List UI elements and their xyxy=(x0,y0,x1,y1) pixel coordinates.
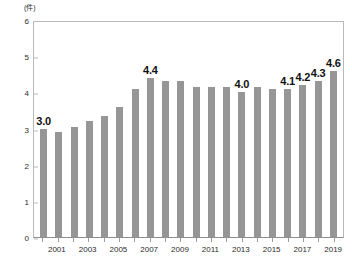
bar xyxy=(254,87,261,237)
x-axis-tick-slot xyxy=(265,238,280,243)
bar-slot xyxy=(173,22,188,237)
x-axis-tickmark xyxy=(257,238,258,242)
x-axis-label-slot: 2009 xyxy=(171,245,189,259)
x-axis-tickmark xyxy=(334,238,335,242)
x-axis-tick-label: 2013 xyxy=(232,245,250,255)
x-axis-tick-slot xyxy=(234,238,249,243)
x-axis-tickmark xyxy=(180,238,181,242)
x-axis-tick-slot xyxy=(219,238,234,243)
bar xyxy=(147,78,154,237)
x-axis-label-slot xyxy=(189,245,202,259)
bar xyxy=(40,129,47,238)
bar xyxy=(162,81,169,237)
bar-slot xyxy=(128,22,143,237)
x-axis-label-slot xyxy=(127,245,140,259)
x-axis-tickmark xyxy=(242,238,243,242)
x-axis-tickmark xyxy=(88,238,89,242)
x-axis-tick-slot xyxy=(296,238,311,243)
x-axis-label-slot: 2007 xyxy=(140,245,158,259)
bar-value-label: 4.6 xyxy=(326,58,341,69)
bar xyxy=(269,89,276,237)
bar-slot xyxy=(158,22,173,237)
bar-slot xyxy=(204,22,219,237)
x-axis-tickmark xyxy=(42,238,43,242)
bar xyxy=(315,81,322,237)
bar-slot: 4.1 xyxy=(280,22,295,237)
x-axis-label-slot xyxy=(66,245,79,259)
x-axis-tick-slot xyxy=(96,238,111,243)
x-axis-tick-label: 2005 xyxy=(110,245,128,255)
x-axis-tickmark xyxy=(303,238,304,242)
bar-slot xyxy=(250,22,265,237)
y-axis-unit-label: (件) xyxy=(24,3,36,12)
x-axis-tick-slot xyxy=(250,238,265,243)
x-axis-label-slot: 2013 xyxy=(232,245,250,259)
bar-value-label: 4.1 xyxy=(280,76,295,87)
x-axis-tick-slot xyxy=(311,238,326,243)
bar xyxy=(177,81,184,237)
x-axis-tickmark xyxy=(288,238,289,242)
bar-value-label: 4.2 xyxy=(296,72,311,83)
x-axis-tickmark xyxy=(119,238,120,242)
x-axis-labels: 2001200320052007200920112013201520172019 xyxy=(33,245,344,259)
x-axis-label-slot: 2011 xyxy=(202,245,219,259)
x-axis-tick-label: 2003 xyxy=(79,245,97,255)
bar xyxy=(299,85,306,237)
y-axis-tick-label: 1 xyxy=(25,199,34,207)
y-axis-tick-label: 6 xyxy=(25,18,34,26)
x-axis-label-slot: 2015 xyxy=(263,245,281,259)
bar-slot xyxy=(112,22,127,237)
bar-value-label: 4.0 xyxy=(235,79,250,90)
x-axis-tick-slot xyxy=(327,238,342,243)
y-axis-tick-label: 2 xyxy=(25,163,34,171)
x-axis-tick-slot xyxy=(142,238,157,243)
x-axis-tick-slot xyxy=(281,238,296,243)
x-axis-tickmark xyxy=(104,238,105,242)
bar xyxy=(238,92,245,237)
bar-slot xyxy=(67,22,82,237)
y-axis-tick-label: 3 xyxy=(25,127,34,135)
x-axis-label-slot xyxy=(219,245,232,259)
plot-area: 0123456 3.04.44.04.14.24.34.6 xyxy=(33,21,344,238)
x-axis-tickmark xyxy=(226,238,227,242)
x-axis-tickmark xyxy=(272,238,273,242)
y-axis-tick-label: 5 xyxy=(25,54,34,62)
bar xyxy=(116,107,123,237)
x-axis-label-slot xyxy=(250,245,263,259)
x-axis-tickmark xyxy=(73,238,74,242)
x-axis-tick-label: 2015 xyxy=(263,245,281,255)
x-axis-tick-slot xyxy=(188,238,203,243)
x-axis-tick-slot xyxy=(66,238,81,243)
bar xyxy=(132,89,139,237)
x-axis-label-slot: 2017 xyxy=(294,245,312,259)
bar xyxy=(101,116,108,237)
bar-value-label: 3.0 xyxy=(36,116,51,127)
x-axis-tickmark xyxy=(211,238,212,242)
bar-slot xyxy=(82,22,97,237)
x-axis-label-slot xyxy=(311,245,324,259)
x-axis-tickmark xyxy=(196,238,197,242)
x-axis-tickmark xyxy=(165,238,166,242)
bar-value-label: 4.3 xyxy=(311,68,326,79)
x-axis-tick-slot xyxy=(35,238,50,243)
bar-value-label: 4.4 xyxy=(143,65,158,76)
x-axis-tickmarks xyxy=(33,238,344,243)
bar xyxy=(86,121,93,237)
bar-slot xyxy=(219,22,234,237)
x-axis-tick-label: 2017 xyxy=(294,245,312,255)
bar xyxy=(208,87,215,237)
x-axis-tickmark xyxy=(318,238,319,242)
x-axis-tick-slot xyxy=(204,238,219,243)
bar-chart: (件) 0123456 3.04.44.04.14.24.34.6 200120… xyxy=(0,0,352,268)
bar-slot xyxy=(51,22,66,237)
bar-slot xyxy=(189,22,204,237)
x-axis-tick-label: 2007 xyxy=(140,245,158,255)
bar-slot: 4.0 xyxy=(234,22,249,237)
x-axis-label-slot xyxy=(281,245,294,259)
x-axis-label-slot: 2003 xyxy=(79,245,97,259)
bar xyxy=(284,89,291,237)
x-axis-label-slot xyxy=(97,245,110,259)
x-axis-tick-label: 2001 xyxy=(48,245,66,255)
x-axis-label-slot: 2019 xyxy=(324,245,342,259)
x-axis-tick-slot xyxy=(158,238,173,243)
